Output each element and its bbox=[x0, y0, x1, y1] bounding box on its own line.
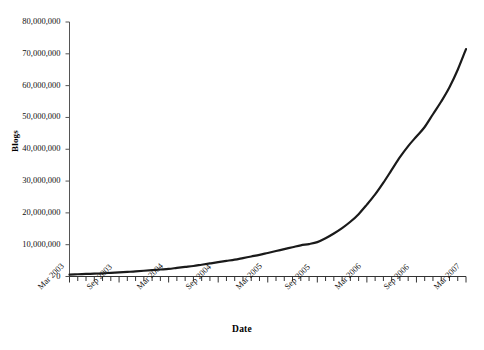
y-axis-title: Blogs bbox=[10, 118, 20, 164]
x-axis-title: Date bbox=[0, 324, 484, 334]
y-tick-label: 20,000,000 bbox=[0, 208, 61, 217]
x-axis-tick-marks bbox=[70, 277, 467, 283]
y-tick-label: 30,000,000 bbox=[0, 176, 61, 185]
blogs-growth-line-chart: 010,000,00020,000,00030,000,00040,000,00… bbox=[0, 0, 484, 350]
y-tick-label: 70,000,000 bbox=[0, 49, 61, 58]
y-tick-label: 60,000,000 bbox=[0, 81, 61, 90]
data-series-line bbox=[70, 49, 467, 275]
y-axis-tick-marks bbox=[66, 22, 70, 277]
y-tick-label: 80,000,000 bbox=[0, 17, 61, 26]
plot-area bbox=[0, 0, 484, 350]
y-tick-label: 10,000,000 bbox=[0, 240, 61, 249]
